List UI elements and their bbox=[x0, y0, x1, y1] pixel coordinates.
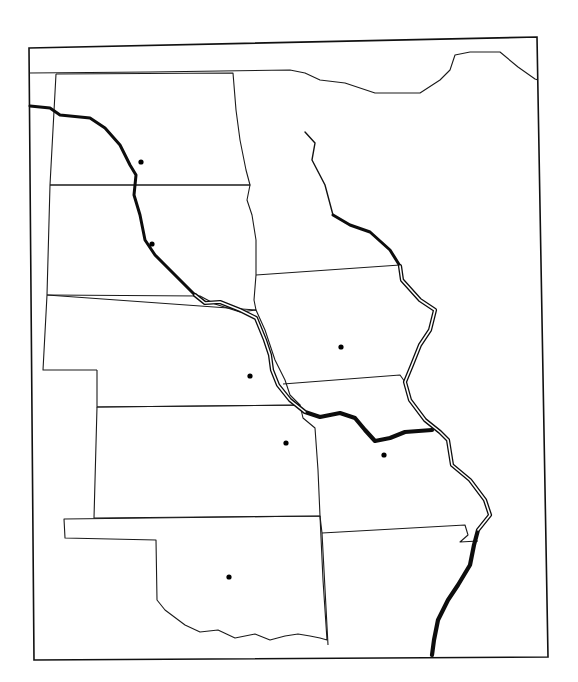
canada-border bbox=[29, 52, 538, 93]
capital-dot-kansas bbox=[283, 440, 288, 445]
state-north-dakota bbox=[50, 73, 250, 185]
capital-dot-missouri bbox=[381, 452, 386, 457]
capital-dot-iowa bbox=[338, 344, 343, 349]
state-nebraska bbox=[47, 295, 300, 407]
capital-dot-south-dakota bbox=[149, 241, 154, 246]
capital-dot-north-dakota bbox=[138, 159, 143, 164]
missouri-river-lower bbox=[195, 295, 432, 441]
outline-map bbox=[0, 0, 578, 682]
capital-dot-nebraska bbox=[247, 373, 252, 378]
missouri-river bbox=[30, 106, 195, 295]
missouri-river-lower-inner bbox=[195, 295, 305, 412]
mississippi-headwaters bbox=[305, 132, 333, 215]
state-oklahoma bbox=[64, 516, 327, 640]
mississippi-river-upper bbox=[333, 215, 400, 266]
state-kansas bbox=[94, 405, 320, 518]
mississippi-river bbox=[400, 266, 490, 655]
state-missouri bbox=[322, 525, 478, 542]
capital-dot-oklahoma bbox=[226, 574, 231, 579]
